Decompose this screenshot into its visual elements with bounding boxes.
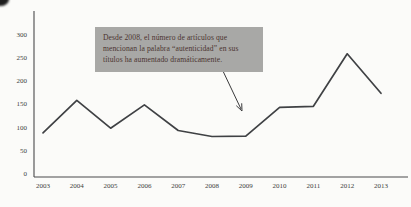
- x-tick-label: 2005: [104, 182, 119, 190]
- x-tick-label: 2013: [374, 182, 389, 190]
- y-tick-label: 250: [17, 54, 28, 62]
- annotation-text: Desde 2008, el número de artículos que m…: [103, 33, 239, 64]
- y-tick-label: 0: [24, 170, 28, 178]
- x-tick-label: 2008: [205, 182, 220, 190]
- annotation-box: Desde 2008, el número de artículos que m…: [95, 27, 263, 72]
- y-tick-label: 200: [17, 77, 28, 85]
- annotation-arrow-shaft: [222, 69, 241, 109]
- x-tick-label: 2011: [307, 182, 321, 190]
- x-tick-label: 2007: [171, 182, 186, 190]
- chart-figure: 0501001502002503002003200420052006200720…: [0, 0, 411, 207]
- y-tick-label: 150: [17, 100, 28, 108]
- y-tick-label: 100: [17, 124, 28, 132]
- y-tick-label: 300: [17, 31, 28, 39]
- x-tick-label: 2004: [70, 182, 85, 190]
- x-tick-label: 2003: [36, 182, 51, 190]
- x-tick-label: 2012: [340, 182, 355, 190]
- x-tick-label: 2010: [273, 182, 288, 190]
- x-tick-label: 2006: [137, 182, 152, 190]
- x-tick-label: 2009: [239, 182, 254, 190]
- y-tick-label: 50: [20, 147, 28, 155]
